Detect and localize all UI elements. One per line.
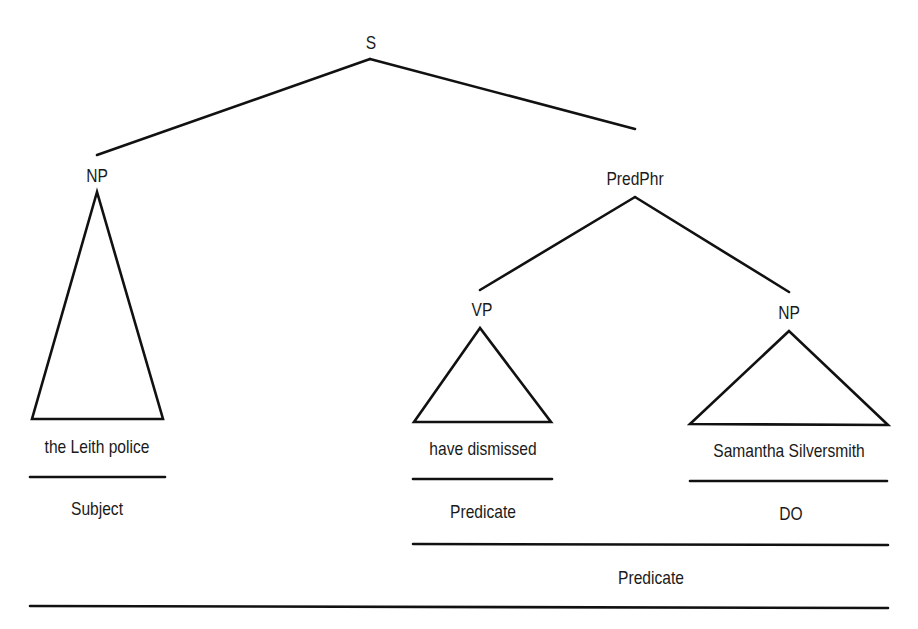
node-predphr: PredPhr xyxy=(606,169,663,188)
leaf-object-text: Samantha Silversmith xyxy=(713,441,865,460)
function-verb-predicate: Predicate xyxy=(450,502,516,521)
edge-s-predphr xyxy=(370,59,635,129)
function-full-predicate: Predicate xyxy=(618,568,684,587)
node-object-np: NP xyxy=(778,303,800,322)
leaf-verb-text: have dismissed xyxy=(429,439,536,458)
subject-np-triangle xyxy=(32,192,163,419)
edge-predphr-vp xyxy=(480,197,635,290)
syntax-tree-diagram: S NP PredPhr VP NP the Leith police have… xyxy=(0,0,918,629)
object-np-triangle xyxy=(690,331,888,425)
predicate-span-line xyxy=(413,544,888,545)
vp-triangle xyxy=(414,328,551,422)
function-direct-object: DO xyxy=(779,504,802,523)
node-vp: VP xyxy=(472,300,493,319)
leaf-subject-text: the Leith police xyxy=(45,437,150,456)
node-s: S xyxy=(366,33,376,52)
node-subject-np: NP xyxy=(86,166,108,185)
sentence-span-line xyxy=(30,606,888,608)
edge-predphr-np xyxy=(635,197,789,292)
edge-s-np xyxy=(97,59,370,155)
function-subject: Subject xyxy=(71,499,123,518)
